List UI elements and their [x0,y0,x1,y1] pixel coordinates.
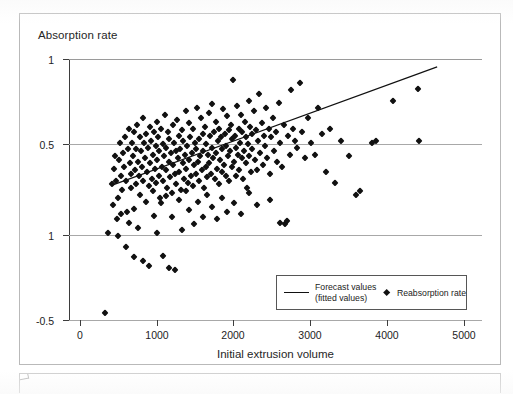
x-axis-title: Initial extrusion volume [69,348,482,360]
scatter-point [269,114,276,121]
y-tick-label-neg05: -0.5 [36,315,54,327]
scatter-point [278,163,285,170]
scatter-point [172,266,179,273]
scatter-point [130,205,137,212]
scatter-point [139,257,146,264]
scatter-point [118,186,125,193]
scatter-point [102,309,109,316]
scatter-point [204,191,211,198]
scatter-point [140,177,147,184]
scatter-point [314,104,321,111]
x-tick-label-5000: 5000 [452,329,475,341]
legend-label-line2: (fitted values) [315,293,367,303]
scatter-point [153,118,160,125]
x-tick-4000 [387,320,388,326]
scatter-point [209,101,216,108]
scatter-point [160,177,167,184]
scatter-point [288,87,295,94]
scatter-point [215,181,222,188]
scatter-point [296,80,303,87]
diamond-marker-icon [382,289,390,297]
scatter-point [256,90,263,97]
scatter-point [150,188,157,195]
scatter-point [267,196,274,203]
scatter-point [311,151,318,158]
scatter-point [253,167,260,174]
scatter-point [245,97,252,104]
scatter-point [266,170,273,177]
scatter-point [144,144,151,151]
scatter-point [185,207,192,214]
scatter-point [390,97,397,104]
plot-area: 1 0.5 1 -0.5 0 1000 2000 3000 4000 5000 … [69,59,482,320]
scatter-point [182,188,189,195]
scatter-point [183,165,190,172]
x-tick-label-2000: 2000 [221,329,244,341]
scatter-point [233,102,240,109]
scatter-point [264,155,271,162]
scatter-point [178,226,185,233]
x-tick-1000 [157,320,158,326]
scatter-point [145,262,152,269]
x-tick-label-3000: 3000 [298,329,321,341]
scatter-point [294,144,301,151]
scatter-point [327,125,334,132]
scatter-point [124,208,131,215]
scatter-point [139,114,146,121]
scatter-point [298,128,305,135]
scatter-point [414,85,421,92]
scatter-point [196,177,203,184]
scatter-point [277,139,284,146]
scatter-point [289,125,296,132]
legend-item-reabsorption-rate: Reabsorption rate [380,288,466,298]
scatter-point [159,252,166,259]
scatter-point [154,156,161,163]
scatter-point [120,163,127,170]
scatter-point [275,99,282,106]
scatter-point [115,195,122,202]
scatter-point [331,179,338,186]
y-tick-neg05: -0.5 [63,320,69,321]
scatter-point [195,198,202,205]
scatter-point [150,212,157,219]
scatter-point [213,118,220,125]
scatter-point [240,175,247,182]
scatter-point [161,111,168,118]
scatter-point [259,161,266,168]
y-tick-label-1: 1 [48,54,54,66]
scatter-point [286,151,293,158]
figure-frame: Absorption rate 1 0.5 1 -0.5 0 1000 2000 [19,13,501,365]
scatter-point [157,200,164,207]
scatter-point [214,215,221,222]
scatter-point [134,121,141,128]
scatter-point [257,149,264,156]
x-tick-2000 [233,320,234,326]
scatter-point [162,167,169,174]
scatter-point [249,146,256,153]
y-axis-line [69,59,70,320]
scatter-point [144,168,151,175]
scatter-point [122,177,129,184]
scatter-point [190,221,197,228]
scatter-point [265,125,272,132]
legend-label-line1: Forecast values [315,282,376,292]
gridline-y-1 [69,59,482,60]
scatter-point [199,214,206,221]
scatter-point [284,132,291,139]
scatter-point [218,195,225,202]
scatter-point [142,198,149,205]
scatter-point [110,165,117,172]
legend-item-forecast-values: Forecast values (fitted values) [277,282,380,303]
legend-label-reabsorption-rate: Reabsorption rate [397,288,466,298]
scatter-point [115,233,122,240]
scatter-point [122,243,129,250]
legend-label-forecast-values: Forecast values (fitted values) [315,282,376,303]
scatter-point [345,153,352,160]
scatter-point [190,125,197,132]
scatter-point [242,160,249,167]
scatter-point [226,177,233,184]
scatter-point [250,108,257,115]
scatter-point [238,210,245,217]
gridline-y-neg05 [69,320,482,321]
scatter-point [193,104,200,111]
